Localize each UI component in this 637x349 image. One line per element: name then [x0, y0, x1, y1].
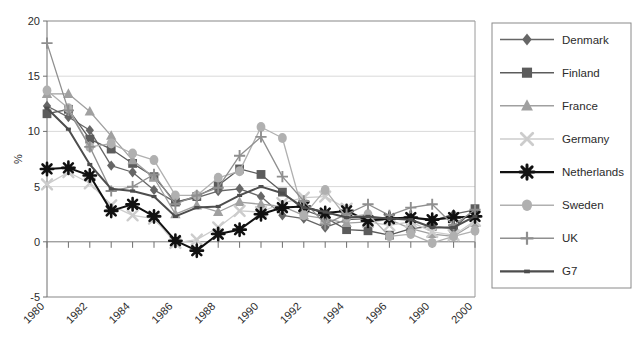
legend-item-france[interactable]: France: [500, 99, 598, 111]
data-point-sweden-1991: [278, 133, 287, 143]
data-point-sweden-1983: [107, 139, 116, 149]
data-point-sweden-1985: [150, 155, 159, 165]
data-point-g7-1983: [109, 187, 114, 190]
data-point-sweden-1996: [385, 231, 394, 241]
data-point-g7-1990: [259, 185, 264, 188]
data-point-g7-1994: [344, 216, 349, 219]
data-point-netherlands-1985: [148, 210, 160, 222]
legend-label-g7: G7: [562, 265, 577, 277]
legend: DenmarkFinlandFranceGermanyNetherlandsSw…: [492, 23, 631, 288]
x-tick-label-7: 1994: [320, 300, 346, 326]
data-point-netherlands-1981: [62, 162, 74, 174]
legend-item-g7[interactable]: G7: [500, 265, 577, 277]
data-point-g7-1987: [194, 206, 199, 209]
data-point-g7-1989: [237, 194, 242, 197]
legend-item-germany[interactable]: Germany: [500, 133, 610, 145]
x-tick-label-group-5: 1990: [235, 300, 261, 326]
line-chart: -505101520%19801982198419861988199019921…: [0, 0, 637, 349]
data-point-netherlands-1986: [169, 234, 181, 246]
data-point-g7-1999: [451, 226, 456, 229]
data-point-g7-1995: [366, 215, 371, 218]
legend-item-uk[interactable]: UK: [500, 232, 578, 245]
data-point-sweden-1989: [235, 166, 244, 176]
plot-background: [47, 21, 475, 297]
data-point-sweden-1993: [321, 185, 330, 195]
x-tick-label-4: 1988: [192, 300, 218, 326]
x-tick-label-8: 1996: [363, 300, 389, 326]
data-point-sweden-1988: [214, 173, 223, 183]
data-point-g7-1993: [323, 210, 328, 213]
y-axis-title: %: [12, 154, 24, 164]
x-tick-label-1: 1982: [63, 300, 89, 326]
data-point-netherlands-1987: [191, 244, 203, 256]
x-tick-label-6: 1992: [277, 300, 303, 326]
data-point-sweden-1980: [43, 86, 52, 96]
x-tick-label-group-7: 1994: [320, 300, 346, 326]
data-point-sweden-1999: [449, 231, 458, 241]
legend-marker-finland: [522, 68, 532, 78]
x-tick-label-group-10: 2000: [449, 300, 475, 326]
y-tick-label-10: 10: [28, 125, 40, 137]
legend-marker-netherlands: [520, 165, 534, 179]
x-tick-label-group-6: 1992: [277, 300, 303, 326]
data-point-g7-1986: [173, 215, 178, 218]
legend-label-france: France: [562, 100, 598, 112]
data-point-netherlands-1998: [426, 214, 438, 226]
legend-marker-denmark: [522, 34, 532, 46]
data-point-netherlands-1982: [84, 169, 96, 181]
legend-label-germany: Germany: [562, 133, 610, 145]
x-tick-label-group-2: 1984: [106, 300, 132, 326]
x-tick-label-group-3: 1986: [149, 300, 175, 326]
legend-item-finland[interactable]: Finland: [500, 67, 600, 79]
chart-container: -505101520%19801982198419861988199019921…: [0, 0, 637, 349]
data-point-netherlands-1989: [233, 223, 245, 235]
data-point-g7-1980: [45, 107, 50, 110]
data-point-g7-2000: [473, 215, 478, 218]
data-point-finland-1990: [257, 170, 266, 179]
x-tick-label-3: 1986: [149, 300, 175, 326]
data-point-g7-1992: [301, 206, 306, 209]
legend-label-netherlands: Netherlands: [562, 166, 624, 178]
x-tick-label-group-8: 1996: [363, 300, 389, 326]
legend-marker-g7: [524, 270, 530, 274]
data-point-g7-1998: [430, 226, 435, 229]
x-tick-label-5: 1990: [235, 300, 261, 326]
legend-label-uk: UK: [562, 232, 578, 244]
data-point-netherlands-1988: [212, 228, 224, 240]
legend-label-sweden: Sweden: [562, 199, 604, 211]
data-point-netherlands-1983: [105, 205, 117, 217]
legend-marker-sweden: [522, 199, 532, 211]
data-point-sweden-2000: [471, 226, 480, 236]
data-point-netherlands-1980: [41, 163, 53, 175]
data-point-sweden-1998: [428, 238, 437, 248]
legend-item-sweden[interactable]: Sweden: [500, 199, 604, 211]
y-tick-label-5: 5: [34, 181, 40, 193]
data-point-netherlands-1984: [126, 198, 138, 210]
data-point-sweden-1997: [406, 229, 415, 239]
y-tick-label-0: 0: [34, 236, 40, 248]
legend-label-finland: Finland: [562, 67, 600, 79]
data-point-sweden-1992: [299, 210, 308, 220]
x-tick-label-group-1: 1982: [63, 300, 89, 326]
legend-item-denmark[interactable]: Denmark: [500, 34, 609, 46]
data-point-netherlands-1990: [255, 208, 267, 220]
legend-box: [492, 23, 631, 288]
legend-label-denmark: Denmark: [562, 34, 609, 46]
data-point-sweden-1984: [128, 148, 137, 158]
data-point-g7-1997: [408, 218, 413, 221]
y-tick-label-15: 15: [28, 70, 40, 82]
legend-item-netherlands[interactable]: Netherlands: [500, 165, 624, 179]
x-tick-label-0: 1980: [21, 300, 47, 326]
x-tick-label-9: 1990: [406, 300, 432, 326]
data-point-g7-1981: [66, 128, 71, 131]
x-tick-label-2: 1984: [106, 300, 132, 326]
x-tick-label-group-9: 1990: [406, 300, 432, 326]
legend-marker-france: [521, 99, 533, 110]
data-point-g7-1984: [130, 189, 135, 192]
data-point-g7-1985: [152, 195, 157, 198]
x-tick-label-group-0: 1980: [21, 300, 47, 326]
x-tick-label-group-4: 1988: [192, 300, 218, 326]
y-tick-label-20: 20: [28, 15, 40, 27]
data-point-g7-1996: [387, 217, 392, 220]
x-tick-label-10: 2000: [449, 300, 475, 326]
